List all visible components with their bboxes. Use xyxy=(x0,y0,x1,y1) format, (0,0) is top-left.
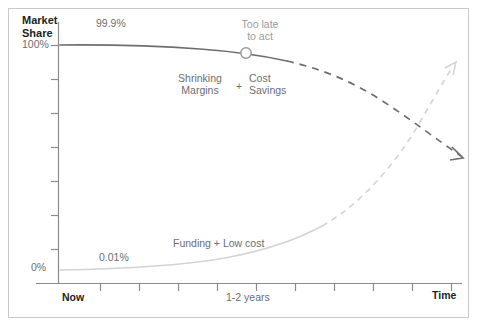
too-late-label-line2: to act xyxy=(225,31,295,43)
funding-low-cost-label: Funding + Low cost xyxy=(173,238,264,250)
chart-canvas xyxy=(0,0,478,328)
shrinking-margins-line1: Shrinking xyxy=(167,73,233,85)
y-tick-label-0: 0% xyxy=(31,262,46,274)
y-axis-ticks xyxy=(51,46,59,250)
chart-screenshot: Market Share 100% 0% Now 1-2 years Time … xyxy=(0,0,478,328)
series-disruptor-dashed xyxy=(322,68,452,226)
series-incumbent-dashed xyxy=(287,61,461,156)
value-label-99-9: 99.9% xyxy=(96,18,126,30)
cost-savings-line1: Cost xyxy=(249,73,271,85)
cost-savings-line2: Savings xyxy=(249,85,286,97)
x-axis-title-time: Time xyxy=(432,290,456,302)
plus-separator: + xyxy=(236,81,242,93)
shrinking-margins-line2: Margins xyxy=(167,85,233,97)
y-tick-label-100: 100% xyxy=(22,39,49,51)
x-axis-ticks xyxy=(101,284,452,292)
y-axis-title-line1: Market xyxy=(22,14,57,26)
x-tick-label-1-2-years: 1-2 years xyxy=(226,292,270,304)
value-label-0-01: 0.01% xyxy=(99,252,129,264)
series-disruptor-arrowhead xyxy=(445,62,456,75)
series-incumbent-solid xyxy=(60,45,287,61)
x-tick-label-now: Now xyxy=(62,292,84,304)
too-late-marker-circle[interactable] xyxy=(241,48,251,58)
too-late-label-line1: Too late xyxy=(225,19,295,31)
